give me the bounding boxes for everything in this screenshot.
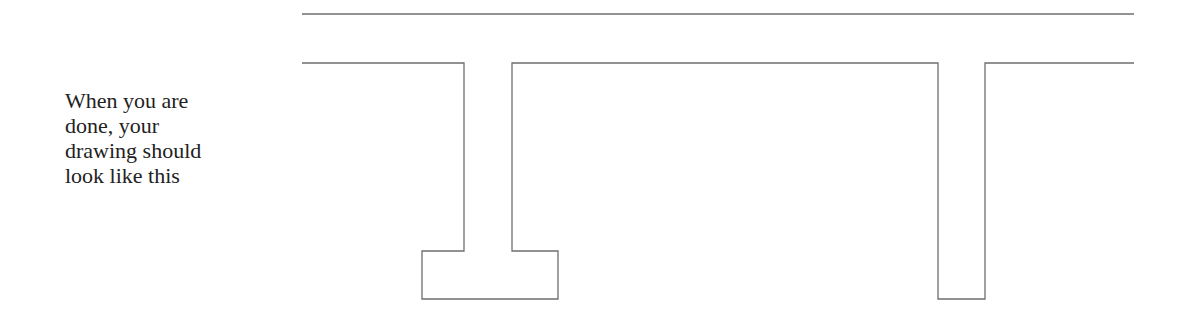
beam-profile-outline	[302, 63, 1134, 299]
drawing-canvas	[0, 0, 1187, 316]
